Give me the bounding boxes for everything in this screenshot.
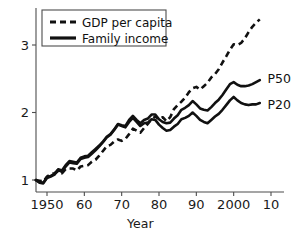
legend-label: GDP per capita: [82, 16, 172, 30]
x-tick-label: 80: [151, 197, 168, 212]
x-tick-label: 2000: [217, 197, 250, 212]
x-tick-label: 1950: [30, 197, 63, 212]
x-tick-label: 10: [263, 197, 280, 212]
series-annotation: P50: [268, 71, 291, 86]
x-tick-label: 60: [76, 197, 93, 212]
chart-canvas: 123195060708090200010Year GDP per capita…: [0, 0, 296, 238]
x-axis-title: Year: [126, 216, 154, 231]
x-tick-label: 70: [113, 197, 130, 212]
chart-labels: P50P20: [268, 71, 291, 112]
y-tick-label: 1: [21, 173, 29, 188]
chart-legend: GDP per capitaFamily income: [42, 10, 172, 46]
series-line-1: [36, 80, 260, 183]
series-line-2: [36, 97, 260, 183]
legend-label: Family income: [82, 32, 168, 46]
chart-figure: 123195060708090200010Year GDP per capita…: [0, 0, 296, 238]
series-annotation: P20: [268, 97, 291, 112]
y-tick-label: 2: [21, 105, 29, 120]
x-tick-label: 90: [188, 197, 205, 212]
y-tick-label: 3: [21, 38, 29, 53]
